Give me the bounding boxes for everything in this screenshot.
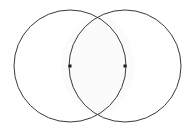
right-center-point — [124, 65, 127, 68]
left-center-point — [69, 65, 72, 68]
figure-canvas — [0, 0, 192, 128]
vesica-piscis-diagram — [0, 0, 192, 128]
